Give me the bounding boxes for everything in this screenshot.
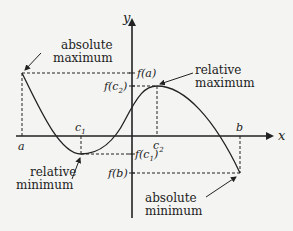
svg-text:absolute: absolute xyxy=(61,38,113,52)
diagram-canvas: y x a c1 c2 b f(a) f(c2) f(c1) f(b) abso… xyxy=(0,0,293,231)
svg-text:relative: relative xyxy=(30,165,76,179)
svg-text:maximum: maximum xyxy=(195,76,255,90)
y-axis-label: y xyxy=(122,10,131,25)
extrema-diagram: y x a c1 c2 b f(a) f(c2) f(c1) f(b) abso… xyxy=(0,0,293,231)
svg-text:maximum: maximum xyxy=(53,51,113,65)
x-tick-a: a xyxy=(18,140,25,153)
annotation-relative-minimum: relative minimum xyxy=(16,158,80,192)
annotation-relative-maximum: relative maximum xyxy=(160,63,255,90)
x-tick-b: b xyxy=(236,121,243,134)
svg-text:absolute: absolute xyxy=(145,191,197,205)
y-tick-fc1: f(c1) xyxy=(134,148,158,163)
annotation-absolute-minimum: absolute minimum xyxy=(145,177,236,218)
y-tick-fc2: f(c2) xyxy=(103,80,127,95)
svg-text:minimum: minimum xyxy=(16,178,74,192)
x-tick-c1: c1 xyxy=(75,121,86,136)
annotation-absolute-maximum: absolute maximum xyxy=(25,38,113,70)
y-tick-fb: f(b) xyxy=(107,167,128,180)
y-tick-fa: f(a) xyxy=(136,67,156,80)
svg-text:minimum: minimum xyxy=(145,204,203,218)
svg-text:relative: relative xyxy=(195,63,241,77)
x-axis-label: x xyxy=(278,128,286,143)
